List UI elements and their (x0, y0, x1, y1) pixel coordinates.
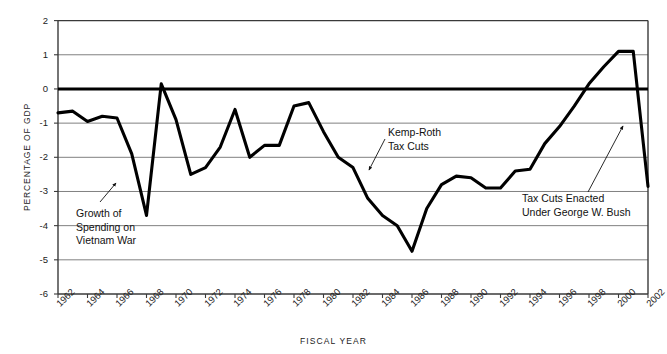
annotation-bush-tax-cuts: Tax Cuts Enacted Under George W. Bush (522, 192, 631, 219)
kemproth-leader-line (369, 139, 385, 170)
x-axis-title: FISCAL YEAR (0, 336, 667, 346)
y-tick-label: -1 (26, 117, 48, 128)
y-tick-label: -5 (26, 254, 48, 265)
y-tick-label: 0 (26, 83, 48, 94)
annotation-leader-lines (100, 126, 623, 202)
gridlines-group (58, 55, 648, 260)
data-series-line (58, 51, 648, 251)
y-tick-label: -6 (26, 288, 48, 299)
annotation-vietnam-war: Growth of Spending on Vietnam War (76, 207, 136, 248)
bush-leader-line (588, 126, 623, 192)
y-tick-label: -4 (26, 220, 48, 231)
y-tick-label: 1 (26, 49, 48, 60)
annotation-kemp-roth: Kemp-Roth Tax Cuts (388, 126, 441, 153)
y-tick-label: 2 (26, 15, 48, 26)
y-tick-label: -3 (26, 185, 48, 196)
vietnam-leader-line (100, 183, 116, 202)
chart-container: PERCENTAGE OF GDP FISCAL YEAR 210-1-2-3-… (0, 0, 667, 354)
y-tick-label: -2 (26, 151, 48, 162)
